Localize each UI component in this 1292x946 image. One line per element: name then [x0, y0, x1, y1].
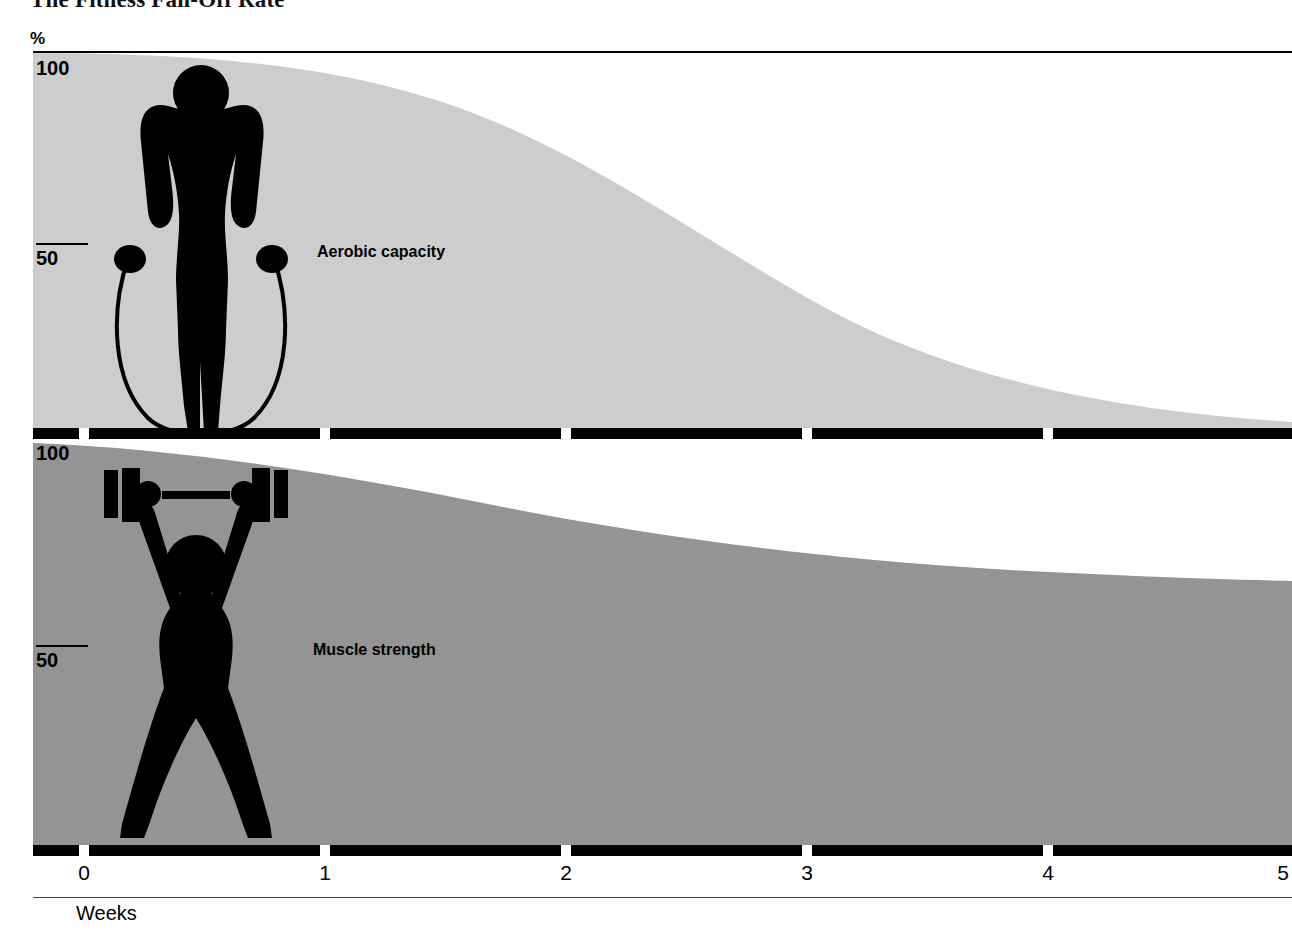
- axis-bar-segment: [1053, 845, 1292, 856]
- axis-bar-segment: [1053, 428, 1292, 439]
- axis-bar-segment: [89, 845, 320, 856]
- x-tick-label-1: 1: [319, 862, 331, 883]
- axis-bar-segment: [812, 428, 1043, 439]
- x-axis-bar: [33, 845, 1292, 856]
- panel-divider-axis-bar: [33, 428, 1292, 439]
- y-tick-rule-bottom-50: [36, 645, 88, 647]
- y-tick-label-top-50: 50: [36, 248, 58, 268]
- x-tick-label-3: 3: [801, 862, 813, 883]
- y-tick-rule-top-50: [36, 243, 88, 245]
- x-tick-label-2: 2: [560, 862, 572, 883]
- axis-bar-segment: [33, 845, 79, 856]
- x-axis-title: Weeks: [76, 903, 137, 923]
- series-label-muscle-strength: Muscle strength: [313, 641, 436, 659]
- weightlifter-figure-icon: [100, 462, 300, 844]
- page-title: The Fitness Fall-Off Rate: [30, 0, 285, 13]
- axis-bar-segment: [33, 428, 79, 439]
- y-tick-label-top-100: 100: [36, 58, 69, 78]
- axis-bar-segment: [330, 428, 561, 439]
- axis-bar-segment: [89, 428, 320, 439]
- jump-rope-figure-svg: [108, 62, 294, 440]
- axis-bar-segment: [571, 428, 802, 439]
- series-label-aerobic-capacity: Aerobic capacity: [317, 243, 445, 261]
- jump-rope-figure-icon: [108, 62, 294, 440]
- axis-bar-segment: [812, 845, 1043, 856]
- y-tick-label-bottom-100: 100: [36, 443, 69, 463]
- bottom-rule: [33, 897, 1292, 898]
- axis-bar-segment: [330, 845, 561, 856]
- fitness-fall-off-chart: The Fitness Fall-Off Rate % 100 50 Aerob…: [0, 0, 1292, 946]
- x-tick-label-5: 5: [1277, 862, 1289, 883]
- x-tick-label-0: 0: [78, 862, 90, 883]
- y-tick-label-bottom-50: 50: [36, 650, 58, 670]
- x-tick-label-4: 4: [1042, 862, 1054, 883]
- y-axis-unit-label: %: [30, 30, 45, 47]
- weightlifter-figure-svg: [100, 462, 300, 844]
- axis-bar-segment: [571, 845, 802, 856]
